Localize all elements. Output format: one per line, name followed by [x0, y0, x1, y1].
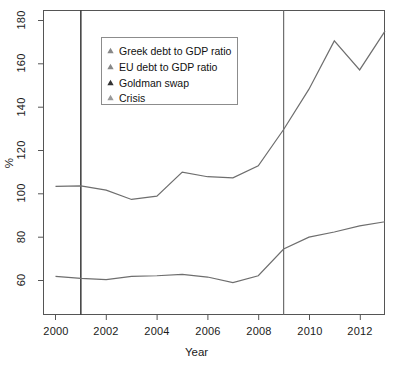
legend-item-crisis: Crisis: [107, 91, 145, 105]
triangle-icon: [107, 79, 114, 86]
y-axis-ticks: [38, 21, 44, 281]
x-tick-label-2006: 2006: [194, 325, 222, 337]
y-tick-label-120: 120: [15, 137, 27, 163]
x-tick-label-2004: 2004: [143, 325, 171, 337]
chart-legend: Greek debt to GDP ratio EU debt to GDP r…: [101, 37, 238, 105]
legend-label-greek-debt: Greek debt to GDP ratio: [119, 46, 231, 57]
x-tick-label-2000: 2000: [42, 325, 70, 337]
y-tick-label-160: 160: [15, 50, 27, 76]
triangle-icon: [107, 47, 114, 54]
y-tick-label-100: 100: [15, 180, 27, 206]
x-axis-ticks: [56, 315, 361, 321]
chart-figure: 60 80 100 120 140 160 180 % 2000 2002 20…: [0, 0, 393, 370]
x-tick-label-2010: 2010: [296, 325, 324, 337]
legend-label-eu-debt: EU debt to GDP ratio: [119, 62, 217, 73]
triangle-icon: [107, 94, 114, 101]
series-line-eu-debt: [56, 222, 386, 283]
x-tick-label-2012: 2012: [346, 325, 374, 337]
triangle-icon: [107, 63, 114, 70]
legend-label-crisis: Crisis: [119, 93, 145, 104]
y-tick-label-60: 60: [15, 270, 27, 290]
x-axis-title: Year: [0, 346, 393, 358]
y-axis-title: %: [3, 153, 15, 173]
x-tick-label-2002: 2002: [92, 325, 120, 337]
y-tick-label-140: 140: [15, 94, 27, 120]
legend-label-goldman-swap: Goldman swap: [119, 78, 189, 89]
legend-item-greek-debt: Greek debt to GDP ratio: [107, 44, 231, 58]
y-tick-label-180: 180: [15, 7, 27, 33]
x-tick-label-2008: 2008: [245, 325, 273, 337]
legend-item-eu-debt: EU debt to GDP ratio: [107, 60, 217, 74]
y-tick-label-80: 80: [15, 227, 27, 247]
legend-item-goldman-swap: Goldman swap: [107, 76, 189, 90]
